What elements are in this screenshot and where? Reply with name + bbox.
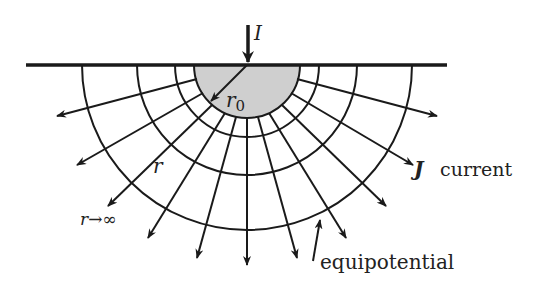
electrode-hemisphere <box>194 65 300 118</box>
radius-label: r <box>153 154 164 178</box>
electrode-diagram: I r0 r r→∞ J current equipotential <box>0 0 546 287</box>
current-arrow <box>57 79 197 116</box>
current-density-symbol: J <box>410 157 425 181</box>
current-arrow <box>282 105 386 206</box>
infinity-label: r→∞ <box>80 209 117 229</box>
current-density-label: current <box>440 158 513 180</box>
r0-subscript: 0 <box>236 97 246 115</box>
current-arrow <box>297 79 437 116</box>
equipotential-pointer <box>313 220 320 261</box>
equipotential-label: equipotential <box>320 250 454 274</box>
current-arrow <box>258 117 297 258</box>
current-arrow <box>197 117 236 258</box>
current-label-I: I <box>253 21 263 45</box>
